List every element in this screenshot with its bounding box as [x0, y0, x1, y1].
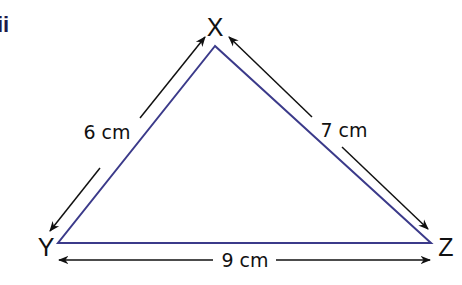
vertex-label-y: Y — [38, 233, 55, 261]
triangle-xyz — [58, 46, 431, 243]
triangle-diagram: X Y Z 6 cm 7 cm 9 cm — [0, 0, 462, 285]
vertex-label-x: X — [207, 13, 224, 41]
side-label-xz: 7 cm — [320, 119, 367, 141]
side-label-xy: 6 cm — [83, 121, 130, 143]
side-label-yz: 9 cm — [221, 249, 268, 271]
vertex-label-z: Z — [438, 233, 453, 261]
